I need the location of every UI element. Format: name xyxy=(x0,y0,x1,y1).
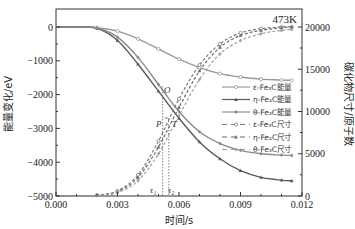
y2-tick-label: 10000 xyxy=(305,106,330,117)
legend-label: θ-Fe₃C能量 xyxy=(253,107,292,117)
y2-axis-title: 碳化物尺寸/原子数 xyxy=(343,62,355,145)
legend: ε-Fe₃C能量η-Fe₂C能量θ-Fe₃C能量ε-Fe₃C尺寸η-Fe₂C尺寸… xyxy=(222,82,292,155)
y-tick-label: −2000 xyxy=(27,89,53,100)
y-axis-left: 0−1000−2000−3000−4000−5000 xyxy=(27,22,60,202)
legend-item: η-Fe₂C尺寸 xyxy=(222,132,292,142)
annotation-tau2: τ₂ xyxy=(168,185,174,195)
y-tick-label: −5000 xyxy=(27,191,53,202)
legend-label: θ-Fe₃C尺寸 xyxy=(253,144,292,154)
legend-item: ε-Fe₃C能量 xyxy=(222,82,292,92)
legend-label: ε-Fe₃C能量 xyxy=(253,82,292,92)
y-axis-title: 能量变化/eV xyxy=(2,76,14,133)
legend-label: η-Fe₂C能量 xyxy=(253,94,292,104)
annotation-o: O xyxy=(164,85,171,95)
x-tick-label: 0.003 xyxy=(106,199,129,210)
x-tick-label: 0.009 xyxy=(229,199,252,210)
y2-tick-label: 20000 xyxy=(305,22,330,33)
y2-tick-label: 5000 xyxy=(305,148,325,159)
tau-reference-lines xyxy=(163,86,169,196)
x-axis: 0.0000.0030.0060.0090.012 xyxy=(45,192,314,210)
legend-item: θ-Fe₃C能量 xyxy=(222,107,292,117)
chart: 0.0000.0030.0060.0090.012 0−1000−2000−30… xyxy=(0,0,355,229)
legend-item: η-Fe₂C能量 xyxy=(222,94,292,104)
y-tick-label: −3000 xyxy=(27,123,53,134)
annotation-p: P xyxy=(155,119,162,129)
y-tick-label: −4000 xyxy=(27,157,53,168)
x-axis-title: 时间/s xyxy=(165,214,194,226)
series-line-1 xyxy=(56,27,292,80)
y-axis-right: 20000150001000050000 xyxy=(298,22,330,202)
legend-item: θ-Fe₃C尺寸 xyxy=(222,144,292,154)
y-tick-label: −1000 xyxy=(27,55,53,66)
legend-label: ε-Fe₃C尺寸 xyxy=(253,119,292,129)
legend-item: ε-Fe₃C尺寸 xyxy=(222,119,292,129)
chart-title: 473K xyxy=(273,13,298,25)
legend-label: η-Fe₂C尺寸 xyxy=(253,132,292,142)
annotation-tau1: τ₁ xyxy=(150,185,156,195)
x-tick-label: 0.006 xyxy=(168,199,191,210)
y2-tick-label: 15000 xyxy=(305,64,330,75)
y2-tick-label: 0 xyxy=(305,191,310,202)
y-tick-label: 0 xyxy=(48,22,53,33)
annotation-t: T xyxy=(172,119,178,129)
